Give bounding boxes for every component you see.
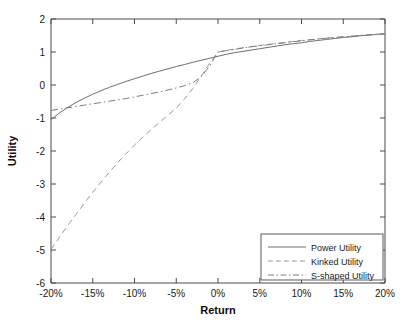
x-tick-label: 0%	[211, 288, 226, 299]
x-tick-label: 5%	[253, 288, 268, 299]
y-tick-label: -3	[36, 179, 45, 190]
y-tick-label: -5	[36, 245, 45, 256]
x-tick-label: 10%	[291, 288, 311, 299]
chart-background	[0, 0, 411, 334]
x-tick-label: -5%	[167, 288, 185, 299]
x-axis-title: Return	[200, 304, 236, 316]
y-tick-label: 2	[39, 14, 45, 25]
x-tick-label: -10%	[123, 288, 146, 299]
y-tick-label: -2	[36, 146, 45, 157]
x-tick-label: 15%	[333, 288, 353, 299]
y-tick-label: -1	[36, 113, 45, 124]
x-tick-label: 20%	[375, 288, 395, 299]
legend-label: S-shaped Utility	[311, 271, 375, 281]
y-axis-title: Utility	[6, 135, 18, 166]
x-tick-label: -15%	[81, 288, 104, 299]
legend-label: Power Utility	[311, 243, 362, 253]
legend-label: Kinked Utility	[311, 257, 364, 267]
chart-legend: Power UtilityKinked UtilityS-shaped Util…	[261, 234, 383, 281]
y-tick-label: 1	[39, 47, 45, 58]
y-tick-label: -4	[36, 212, 45, 223]
x-tick-label: -20%	[39, 288, 62, 299]
y-tick-label: -6	[36, 278, 45, 289]
chart-figure: -20%-15%-10%-5%0%5%10%15%20% 210-1-2-3-4…	[0, 0, 411, 334]
y-tick-label: 0	[39, 80, 45, 91]
utility-functions-chart: -20%-15%-10%-5%0%5%10%15%20% 210-1-2-3-4…	[0, 0, 411, 334]
x-axis-tick-labels: -20%-15%-10%-5%0%5%10%15%20%	[39, 288, 395, 299]
